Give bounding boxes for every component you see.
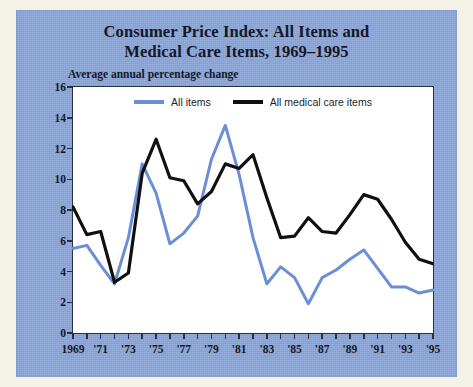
x-tick-mark: [72, 334, 74, 339]
x-tick-mark: [114, 334, 116, 339]
x-tick-mark: [197, 334, 199, 339]
y-tick-label: 8: [44, 204, 66, 216]
x-tick-label: '83: [259, 343, 274, 355]
y-tick-mark: [67, 209, 72, 211]
x-tick-mark: [128, 334, 130, 339]
x-tick-mark: [418, 334, 420, 339]
x-tick-label: '93: [398, 343, 413, 355]
y-tick-mark: [67, 240, 72, 242]
x-tick-mark: [252, 334, 254, 339]
chart-title: Consumer Price Index: All Items and Medi…: [16, 22, 457, 62]
x-tick-mark: [169, 334, 171, 339]
x-tick-label: '75: [149, 343, 164, 355]
x-tick-label: '89: [343, 343, 358, 355]
plot-area-wrapper: All itemsAll medical care items: [72, 86, 434, 334]
x-tick-mark: [280, 334, 282, 339]
y-tick-label: 4: [44, 266, 66, 278]
x-tick-mark: [391, 334, 393, 339]
x-tick-mark: [308, 334, 310, 339]
x-tick-mark: [238, 334, 240, 339]
y-tick-mark: [67, 179, 72, 181]
x-tick-mark: [155, 334, 157, 339]
y-tick-label: 0: [44, 327, 66, 339]
y-tick-label: 14: [44, 112, 66, 124]
x-tick-mark: [86, 334, 88, 339]
x-tick-mark: [349, 334, 351, 339]
y-tick-mark: [67, 117, 72, 119]
x-tick-mark: [183, 334, 185, 339]
x-tick-mark: [211, 334, 213, 339]
y-tick-mark: [67, 332, 72, 334]
chart-title-line-1: Consumer Price Index: All Items and: [16, 22, 457, 42]
x-tick-label: '91: [370, 343, 385, 355]
x-tick-mark: [100, 334, 102, 339]
x-tick-mark: [335, 334, 337, 339]
x-tick-mark: [266, 334, 268, 339]
series-line-all-items: [73, 125, 433, 303]
y-tick-mark: [67, 271, 72, 273]
chart-svg: [72, 86, 434, 334]
chart-title-line-2: Medical Care Items, 1969–1995: [16, 42, 457, 62]
y-tick-label: 10: [44, 173, 66, 185]
series-line-all-medical-care-items: [73, 139, 433, 282]
x-tick-mark: [141, 334, 143, 339]
y-tick-label: 2: [44, 296, 66, 308]
y-tick-mark: [67, 148, 72, 150]
x-tick-label: '87: [315, 343, 330, 355]
x-tick-mark: [377, 334, 379, 339]
x-tick-label: '81: [232, 343, 247, 355]
x-tick-label: '95: [426, 343, 441, 355]
chart-figure: Consumer Price Index: All Items and Medi…: [16, 10, 457, 377]
x-tick-mark: [321, 334, 323, 339]
x-tick-label: '71: [93, 343, 108, 355]
x-tick-mark: [432, 334, 434, 339]
x-tick-label: '73: [121, 343, 136, 355]
y-tick-label: 16: [44, 81, 66, 93]
x-tick-label: '77: [176, 343, 191, 355]
x-tick-mark: [363, 334, 365, 339]
x-tick-mark: [294, 334, 296, 339]
x-tick-mark: [405, 334, 407, 339]
x-tick-mark: [225, 334, 227, 339]
y-tick-mark: [67, 86, 72, 88]
y-tick-mark: [67, 302, 72, 304]
x-tick-label: '85: [287, 343, 302, 355]
y-tick-label: 6: [44, 235, 66, 247]
y-tick-label: 12: [44, 143, 66, 155]
x-tick-label: 1969: [62, 343, 85, 355]
x-tick-label: '79: [204, 343, 219, 355]
chart-subtitle: Average annual percentage change: [68, 68, 238, 80]
